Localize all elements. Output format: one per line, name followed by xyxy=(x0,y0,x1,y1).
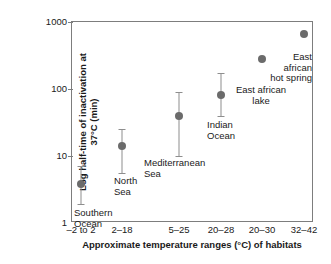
error-cap-lower xyxy=(78,204,85,205)
x-tick-label-2: 5–25 xyxy=(168,225,189,235)
point-label-east-african-lake: East african lake xyxy=(213,85,309,106)
error-bar-mediterranean-sea xyxy=(179,92,180,156)
data-point-north-sea[interactable] xyxy=(118,142,126,150)
y-tick-label: 1000 xyxy=(46,17,67,27)
error-cap-upper xyxy=(218,73,225,74)
x-tick-label-0: –2 to 2 xyxy=(66,225,95,235)
y-tick-label: 10 xyxy=(56,151,67,161)
y-tick-mark xyxy=(68,22,73,23)
x-tick-label-4: 20–30 xyxy=(249,225,275,235)
y-tick-mark xyxy=(68,89,73,90)
figure-container: 1000 100 10 1 Log half-time of inactivat… xyxy=(0,0,331,264)
point-label-indian-ocean: Indian Ocean xyxy=(207,120,235,141)
y-tick-label: 100 xyxy=(51,84,67,94)
error-cap-upper xyxy=(119,129,126,130)
plot-area: 1000 100 10 1 Log half-time of inactivat… xyxy=(71,21,313,222)
error-cap-upper xyxy=(78,166,85,167)
error-bar-north-sea xyxy=(122,129,123,173)
error-cap-lower xyxy=(218,116,225,117)
x-tick-label-3: 20–28 xyxy=(208,225,234,235)
data-point-southern-ocean[interactable] xyxy=(77,180,85,188)
error-cap-lower xyxy=(119,173,126,174)
point-label-east-african-hot-spring: East african hot spring xyxy=(258,52,312,84)
error-cap-upper xyxy=(176,92,183,93)
data-point-mediterranean-sea[interactable] xyxy=(175,112,183,120)
data-point-east-african-hot-spring[interactable] xyxy=(300,30,308,38)
y-tick-mark xyxy=(68,156,73,157)
x-axis-title: Approximate temperature ranges (°C) of h… xyxy=(72,239,312,250)
point-label-north-sea: North Sea xyxy=(114,176,137,197)
x-tick-label-1: 2–18 xyxy=(111,225,132,235)
point-label-mediterranean-sea: Mediterranean Sea xyxy=(144,158,205,179)
x-tick-label-5: 32–42 xyxy=(291,225,317,235)
